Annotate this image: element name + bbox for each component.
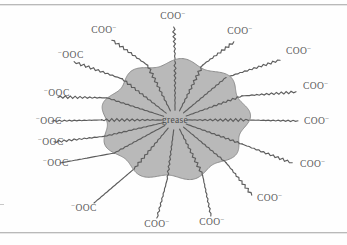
- chain-segment-outer: [242, 144, 292, 163]
- carboxylate-label: COO−: [286, 45, 312, 56]
- chain-segment-outer: [157, 179, 168, 218]
- grease-core-label: grease: [162, 115, 188, 125]
- carboxylate-label: COO−: [304, 115, 330, 126]
- figure-container: grease −OOC−OOC−OOCCOO−COO−COO−COO−COO−C…: [0, 0, 347, 245]
- carboxylate-label: COO−: [199, 216, 225, 227]
- carboxylate-label: COO−: [303, 80, 329, 91]
- carboxylate-label: −OOC: [38, 136, 64, 147]
- carboxylate-label: COO−: [160, 10, 186, 21]
- carboxylate-label: −OOC: [43, 157, 69, 168]
- carboxylate-label: −OOC: [71, 202, 97, 213]
- chain-segment-outer: [226, 60, 280, 77]
- carboxylate-label: COO−: [144, 218, 170, 229]
- chain-segment-outer: [112, 40, 148, 65]
- chain-segment-outer: [226, 163, 252, 196]
- carboxylate-label: COO−: [300, 158, 326, 169]
- carboxylate-label: −OOC: [58, 49, 84, 60]
- chain-segment-outer: [74, 62, 122, 79]
- chain-segment-outer: [94, 169, 134, 203]
- chain-segment-outer: [203, 42, 234, 65]
- micelle-diagram: grease −OOC−OOC−OOCCOO−COO−COO−COO−COO−C…: [0, 0, 347, 245]
- carboxylate-label: COO−: [257, 192, 283, 203]
- chain-segment-outer: [173, 27, 176, 61]
- carboxylate-label: COO−: [91, 24, 117, 35]
- chain-segment-outer: [248, 120, 298, 121]
- chain-segment-outer: [203, 175, 211, 216]
- carboxylate-label: −OOC: [36, 115, 62, 126]
- chain-segment-outer: [242, 91, 296, 96]
- carboxylate-label: −OOC: [44, 87, 70, 98]
- carboxylate-label: COO−: [227, 25, 253, 36]
